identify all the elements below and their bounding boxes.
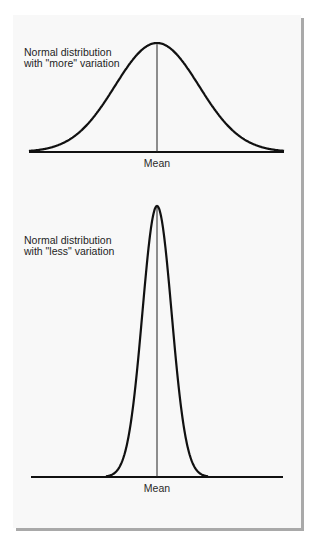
wide-distribution-label: Normal distribution with "more" variatio… [24,47,120,68]
distribution-diagrams [0,0,316,546]
label-line-2: with "less" variation [24,246,114,257]
label-line-2: with "more" variation [24,58,120,69]
label-line-1: Normal distribution [24,47,120,58]
mean-label-wide: Mean [144,157,170,169]
label-line-1: Normal distribution [24,235,114,246]
mean-label-narrow: Mean [144,482,170,494]
narrow-distribution-label: Normal distribution with "less" variatio… [24,235,114,256]
